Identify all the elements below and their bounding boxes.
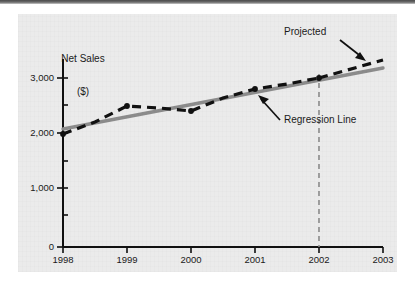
y-axis-title-line1: Net Sales bbox=[46, 53, 120, 64]
x-tick-label-1999: 1999 bbox=[106, 254, 148, 265]
projected-annotation-arrow bbox=[340, 40, 366, 61]
page-top-rule bbox=[0, 0, 415, 4]
y-tick-label-3000: 3,000 bbox=[10, 72, 54, 83]
regression-annotation-arrow bbox=[258, 95, 280, 120]
y-tick-label-2000: 2,000 bbox=[10, 127, 54, 138]
regression-line-annotation-label: Regression Line bbox=[284, 114, 356, 125]
x-tick-label-1998: 1998 bbox=[42, 254, 84, 265]
y-axis-title-line2: ($) bbox=[46, 86, 120, 97]
chart-figure-panel: Net Sales ($) 3,000 2,000 1,000 0 1998 1… bbox=[18, 14, 397, 272]
projected-annotation-label: Projected bbox=[284, 26, 326, 37]
x-tick-label-2001: 2001 bbox=[234, 254, 276, 265]
x-tick-label-2003: 2003 bbox=[362, 254, 404, 265]
y-tick-label-0: 0 bbox=[10, 241, 54, 252]
y-axis-title: Net Sales ($) bbox=[46, 31, 120, 119]
x-tick-label-2000: 2000 bbox=[170, 254, 212, 265]
y-tick-label-1000: 1,000 bbox=[10, 182, 54, 193]
x-tick-label-2002: 2002 bbox=[298, 254, 340, 265]
